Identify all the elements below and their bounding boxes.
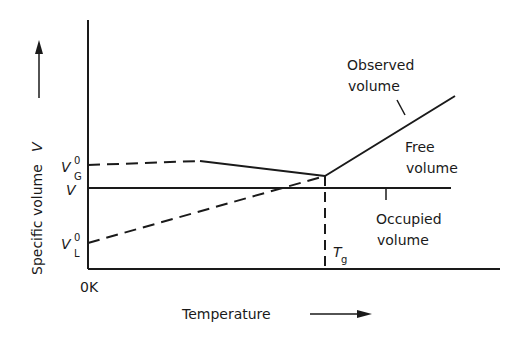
- tg-sub: g: [341, 254, 347, 265]
- observed-label: Observed: [347, 57, 414, 73]
- y-arrow-icon: [35, 40, 43, 54]
- tick-v: V: [66, 182, 77, 198]
- free-volume-diagram: Specific volume V V 0 G V V 0 L 0K Tempe…: [0, 0, 526, 338]
- observed-label-2: volume: [348, 78, 400, 94]
- tick-vl0: V: [61, 236, 72, 252]
- glass-line-dashed: [88, 161, 200, 165]
- x-arrow-icon: [357, 310, 372, 318]
- occupied-label: Occupied: [376, 211, 442, 227]
- tick-vl0-sub: L: [74, 248, 80, 259]
- glass-line-solid: [200, 161, 325, 176]
- origin-label: 0K: [80, 279, 99, 295]
- tick-vg0-sub: G: [74, 171, 82, 182]
- observed-leader: [397, 100, 405, 115]
- y-axis-label: Specific volume: [29, 164, 45, 275]
- free-label: Free: [405, 139, 435, 155]
- tick-vg0-sup: 0: [74, 155, 80, 166]
- tick-vl0-sup: 0: [74, 232, 80, 243]
- free-label-2: volume: [406, 160, 458, 176]
- occupied-label-2: volume: [377, 232, 429, 248]
- tick-vg0: V: [61, 159, 72, 175]
- extrapolated-line: [88, 176, 325, 243]
- y-axis-symbol: V: [29, 141, 45, 152]
- x-axis-label: Temperature: [181, 306, 271, 322]
